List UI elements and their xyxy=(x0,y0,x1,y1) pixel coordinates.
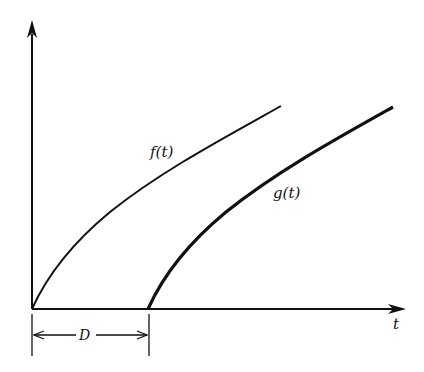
delay-diagram: f(t) g(t) t D xyxy=(0,0,424,372)
curve-g xyxy=(148,107,393,309)
label-t-axis: t xyxy=(393,315,400,333)
label-f: f(t) xyxy=(149,143,173,161)
curve-f xyxy=(32,106,281,309)
label-delay: D xyxy=(78,327,90,343)
label-g: g(t) xyxy=(273,184,300,202)
